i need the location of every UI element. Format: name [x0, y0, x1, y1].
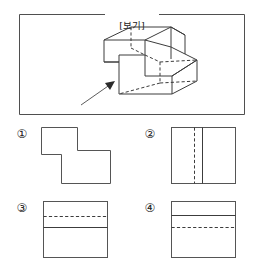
- viewing-direction-arrow: [81, 81, 115, 105]
- option-2-shape: [164, 124, 244, 190]
- worksheet-page: [보기]: [0, 0, 261, 271]
- option-3[interactable]: ③: [10, 196, 132, 267]
- option-1-marker: ①: [14, 126, 30, 142]
- reference-panel: [보기]: [19, 14, 245, 115]
- option-4[interactable]: ④: [138, 196, 260, 267]
- option-4-marker: ④: [142, 200, 158, 216]
- isometric-3d-solid: [19, 14, 245, 115]
- option-4-shape: [164, 198, 244, 264]
- option-3-marker: ③: [14, 200, 30, 216]
- option-3-figure: [36, 198, 116, 264]
- option-2[interactable]: ②: [138, 122, 260, 193]
- option-1-shape: [36, 124, 116, 190]
- option-1-figure: [36, 124, 116, 190]
- option-2-marker: ②: [142, 126, 158, 142]
- option-3-shape: [36, 198, 116, 264]
- options-grid: ① ② ③: [0, 122, 261, 271]
- option-4-figure: [164, 198, 244, 264]
- option-2-figure: [164, 124, 244, 190]
- option-1[interactable]: ①: [10, 122, 132, 193]
